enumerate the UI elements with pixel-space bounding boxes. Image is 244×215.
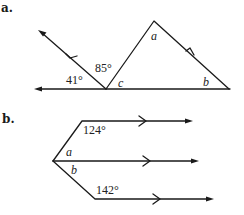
angle-label-142: 142° [96, 183, 119, 197]
angle-label-b: b [71, 163, 77, 177]
arrowhead-right-icon [191, 159, 199, 164]
angle-label-124: 124° [83, 123, 106, 137]
angle-label-41: 41° [66, 73, 83, 87]
part-label-b: b. [2, 112, 15, 126]
geometry-diagram: a. 41° 85° c a b b. 124° [0, 0, 244, 215]
arrowhead-right-icon [206, 197, 214, 202]
triangle-sides [106, 21, 229, 89]
part-label-a: a. [1, 1, 13, 15]
figure-b: b. 124° a b 142° [2, 112, 214, 204]
angle-label-c: c [118, 76, 124, 90]
arrowhead-right-icon [185, 119, 193, 124]
angle-label-85: 85° [95, 61, 112, 75]
angle-label-b: b [203, 75, 209, 89]
angle-label-a: a [151, 29, 157, 43]
upper-ray [53, 121, 188, 161]
arrowhead-left-icon [34, 87, 42, 92]
figure-a: a. 41° 85° c a b [1, 1, 230, 92]
angle-label-a: a [66, 145, 72, 159]
